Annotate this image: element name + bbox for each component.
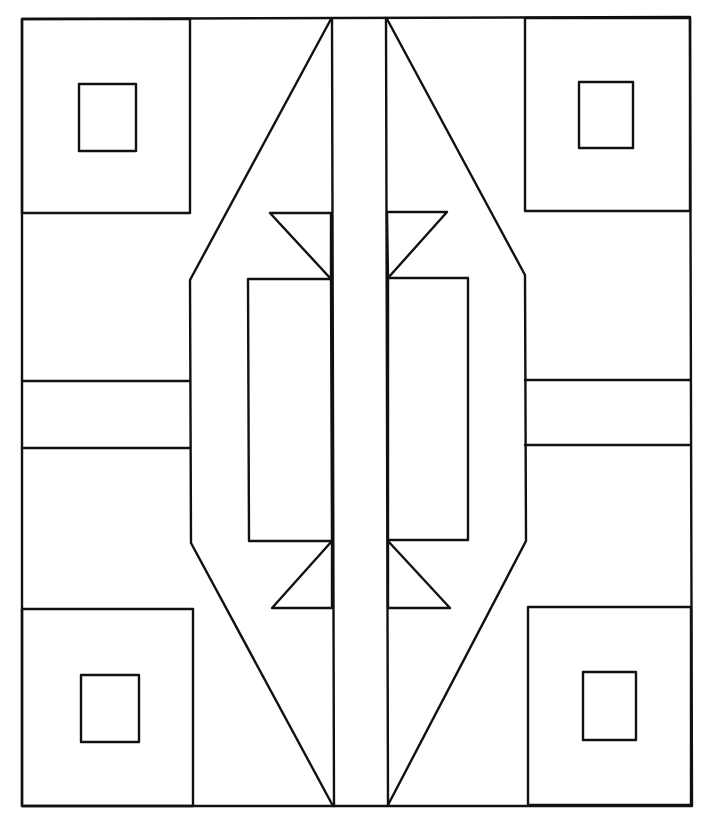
bottom-left-block	[22, 609, 193, 806]
left-half	[190, 19, 333, 806]
inner-rectangles	[248, 278, 468, 541]
bottom-left-triangle	[272, 541, 332, 608]
triangles	[270, 212, 450, 608]
right-half	[387, 19, 526, 805]
bottom-right-inner-square	[583, 672, 636, 740]
right-inner-rect	[388, 278, 468, 540]
top-left-triangle	[270, 213, 331, 279]
top-left-block	[22, 19, 190, 213]
outer-frame-rect	[22, 17, 692, 806]
center-strip	[332, 18, 388, 806]
hexagon-halves	[190, 19, 526, 806]
top-right-triangle	[387, 212, 447, 278]
bottom-right-block	[528, 607, 691, 805]
left-inner-rect	[248, 279, 332, 541]
quilt-pattern-drawing	[0, 0, 709, 817]
top-left-inner-square	[79, 84, 136, 151]
bottom-right-triangle	[388, 541, 450, 608]
corner-blocks	[22, 18, 691, 806]
top-right-inner-square	[579, 82, 633, 148]
outer-frame	[22, 17, 692, 806]
top-right-block	[525, 18, 690, 211]
side-bands	[22, 380, 690, 448]
bottom-left-inner-square	[81, 675, 139, 742]
